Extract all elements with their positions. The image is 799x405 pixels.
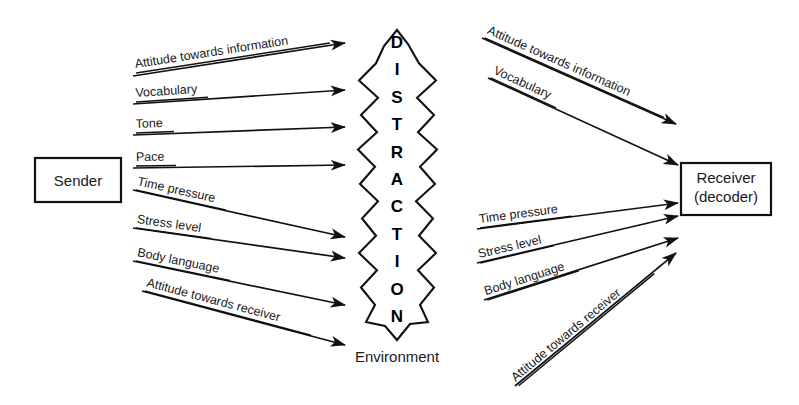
- distraction-letter-2: S: [391, 88, 402, 107]
- left-flow-label-group-1: Vocabulary: [135, 81, 208, 102]
- left-flow-label-3: Pace: [136, 150, 165, 164]
- sender-node[interactable]: Sender: [35, 158, 121, 202]
- left-flow-line-2: [133, 127, 345, 135]
- receiver-label-primary: Receiver: [696, 169, 755, 186]
- left-flow-7: Attitude towards receiver: [142, 276, 345, 345]
- right-flow-2: Time pressure: [477, 200, 678, 229]
- left-flow-label-group-7: Attitude towards receiver: [145, 276, 315, 336]
- distraction-letter-10: N: [391, 307, 403, 326]
- distraction-letter-9: O: [390, 280, 403, 299]
- right-flow-3: Stress level: [477, 216, 678, 263]
- right-flow-line-1: [488, 78, 678, 165]
- left-flow-3: Pace: [133, 149, 345, 168]
- left-flow-label-4: Time pressure: [136, 174, 217, 205]
- left-flow-label-7: Attitude towards receiver: [145, 276, 282, 325]
- right-flow-underline-5: [519, 274, 655, 386]
- left-flow-label-6: Body language: [136, 245, 221, 276]
- right-flow-label-5: Attitude towards receiver: [508, 286, 623, 384]
- barrier-zigzag-group: DISTRACTION: [358, 30, 437, 340]
- distraction-letter-8: I: [395, 252, 400, 271]
- distraction-letter-5: A: [391, 170, 403, 189]
- distraction-letter-7: T: [392, 225, 403, 244]
- left-flow-label-group-2: Tone: [135, 116, 174, 133]
- distraction-letter-4: R: [391, 143, 403, 162]
- communication-barriers-diagram: Attitude towards informationVocabularyTo…: [0, 0, 799, 405]
- left-flow-arrows: Attitude towards informationVocabularyTo…: [133, 27, 345, 345]
- receiver-label-secondary: (decoder): [694, 188, 758, 205]
- sender-label: Sender: [54, 172, 102, 189]
- left-flow-label-group-4: Time pressure: [136, 174, 229, 210]
- distraction-letter-6: C: [391, 197, 403, 216]
- right-flow-label-group-1: Vocabulary: [491, 63, 563, 108]
- left-flow-label-1: Vocabulary: [135, 82, 198, 100]
- distraction-letter-3: T: [392, 115, 403, 134]
- left-flow-2: Tone: [133, 116, 345, 135]
- environment-caption: Environment: [355, 348, 440, 365]
- right-flow-label-group-4: Body language: [482, 256, 578, 300]
- distraction-letter-0: D: [391, 33, 403, 52]
- left-flow-1: Vocabulary: [133, 81, 345, 104]
- right-flow-label-group-3: Stress level: [477, 230, 555, 263]
- distraction-letter-1: I: [395, 60, 400, 79]
- left-flow-underline-3: [136, 165, 176, 166]
- receiver-node[interactable]: Receiver (decoder): [681, 163, 771, 215]
- left-flow-label-5: Stress level: [136, 212, 202, 235]
- left-flow-0: Attitude towards information: [133, 27, 345, 76]
- left-flow-underline-2: [136, 132, 174, 133]
- left-flow-label-2: Tone: [135, 116, 163, 131]
- left-flow-label-group-3: Pace: [136, 149, 176, 166]
- right-flow-arrows: Attitude towards informationVocabularyTi…: [477, 23, 678, 386]
- diagram-canvas: Attitude towards informationVocabularyTo…: [0, 0, 799, 405]
- right-flow-label-group-2: Time pressure: [478, 200, 571, 228]
